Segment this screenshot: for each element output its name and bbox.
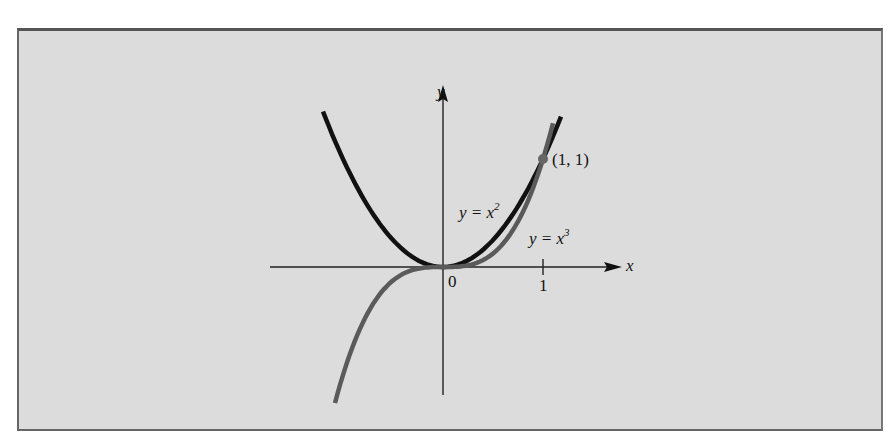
plot-area: [0, 0, 896, 438]
parabola-label-exp: 2: [494, 200, 500, 212]
x-tick-label-1: 1: [539, 276, 548, 296]
origin-label: 0: [448, 272, 457, 292]
parabola-label-text: y = x: [459, 203, 494, 222]
point-label: (1, 1): [552, 150, 589, 170]
cubic-label: y = x3: [529, 226, 570, 249]
cubic-label-exp: 3: [564, 226, 570, 238]
parabola-label: y = x2: [459, 200, 500, 223]
x-axis-label: x: [626, 256, 634, 276]
y-axis-label: y: [437, 82, 445, 102]
parabola-curve: [323, 112, 561, 268]
cubic-curve: [335, 123, 553, 403]
cubic-label-text: y = x: [529, 229, 564, 248]
intersection-point: [538, 154, 548, 164]
